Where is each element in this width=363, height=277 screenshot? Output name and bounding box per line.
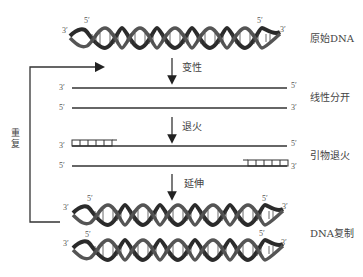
end-label-5prime: 5′ [262, 195, 268, 203]
end-label-3prime: 3′ [59, 84, 65, 92]
stage-label-dna-replicated: DNA复制 [310, 229, 354, 239]
stage-label-separated: 线性分开 [310, 93, 350, 103]
loop-label-repeat: 重复 [10, 128, 19, 150]
end-label-5prime: 5′ [84, 17, 90, 25]
step-label-denature: 变性 [182, 63, 202, 73]
primer-right [243, 160, 288, 166]
end-label-5prime: 5′ [85, 231, 91, 239]
end-label-3prime: 3′ [63, 204, 69, 212]
replicated-dna-helix-2 [73, 240, 283, 260]
original-dna-helix [70, 28, 280, 48]
stage-label-primer-annealed: 引物退火 [310, 151, 350, 161]
primer-left [72, 140, 117, 146]
end-label-5prime: 5′ [87, 195, 93, 203]
step-label-extend: 延伸 [184, 179, 204, 189]
end-label-3prime: 3′ [62, 27, 68, 35]
end-label-5prime: 5′ [291, 140, 297, 148]
end-label-3prime: 3′ [281, 239, 287, 247]
end-label-3prime: 3′ [291, 163, 297, 171]
end-label-5prime: 5′ [59, 104, 65, 112]
end-label-3prime: 3′ [291, 104, 297, 112]
end-label-5prime: 5′ [257, 17, 263, 25]
end-label-3prime: 3′ [63, 240, 69, 248]
stage-label-original-dna: 原始DNA [310, 34, 354, 44]
end-label-3prime: 3′ [59, 142, 65, 150]
end-label-5prime: 5′ [291, 82, 297, 90]
replicated-dna-helix-1 [73, 205, 283, 225]
end-label-5prime: 5′ [259, 230, 265, 238]
end-label-5prime: 5′ [59, 162, 65, 170]
end-label-3prime: 3′ [282, 203, 288, 211]
step-label-anneal: 退火 [182, 122, 202, 132]
end-label-3prime: 3′ [280, 26, 286, 34]
pcr-diagram-canvas [0, 0, 363, 277]
